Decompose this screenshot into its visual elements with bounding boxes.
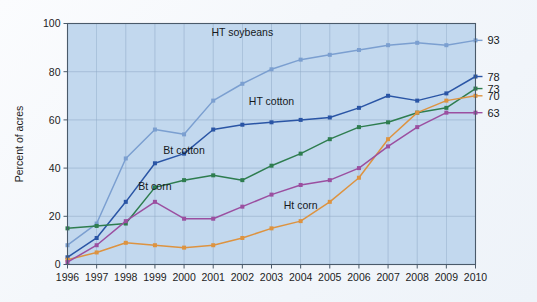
data-point xyxy=(124,219,128,223)
data-point xyxy=(240,205,244,209)
data-point xyxy=(124,156,128,160)
data-point xyxy=(182,178,186,182)
end-value-labels: 9378737063 xyxy=(476,34,500,118)
x-tick-label: 2009 xyxy=(435,271,459,283)
x-tick-label: 2010 xyxy=(464,271,488,283)
data-point xyxy=(415,125,419,129)
y-axis-ticks: 020406080100 xyxy=(43,17,68,270)
data-point xyxy=(415,99,419,103)
x-tick-label: 1997 xyxy=(85,271,109,283)
data-point xyxy=(153,243,157,247)
y-tick-label: 100 xyxy=(43,17,61,29)
end-value-label: 63 xyxy=(488,107,500,119)
data-point xyxy=(328,53,332,57)
data-point xyxy=(386,94,390,98)
annotation-ht-corn: Ht corn xyxy=(284,199,318,211)
data-point xyxy=(211,243,215,247)
data-point xyxy=(240,236,244,240)
data-point xyxy=(328,178,332,182)
data-point xyxy=(299,58,303,62)
data-point xyxy=(211,128,215,132)
data-point xyxy=(386,120,390,124)
data-point xyxy=(444,99,448,103)
data-point xyxy=(124,241,128,245)
data-point xyxy=(299,118,303,122)
annotation-ht-cotton: HT cotton xyxy=(249,95,294,107)
data-point xyxy=(415,111,419,115)
data-point xyxy=(270,226,274,230)
y-tick-label: 0 xyxy=(55,258,61,270)
x-tick-label: 2004 xyxy=(289,271,313,283)
data-point xyxy=(444,91,448,95)
data-point xyxy=(386,137,390,141)
y-tick-label: 60 xyxy=(49,114,61,126)
y-tick-label: 20 xyxy=(49,210,61,222)
data-point xyxy=(386,144,390,148)
x-tick-label: 2001 xyxy=(202,271,226,283)
data-point xyxy=(299,152,303,156)
data-point xyxy=(299,219,303,223)
y-axis-title-text: Percent of acres xyxy=(13,106,25,182)
data-point xyxy=(95,250,99,254)
x-tick-label: 2003 xyxy=(260,271,284,283)
data-point xyxy=(153,128,157,132)
x-tick-label: 2002 xyxy=(231,271,255,283)
end-value-label: 93 xyxy=(488,34,500,46)
end-value-label: 70 xyxy=(488,90,500,102)
data-point xyxy=(182,217,186,221)
y-tick-label: 40 xyxy=(49,162,61,174)
x-tick-label: 2000 xyxy=(172,271,196,283)
data-point xyxy=(211,173,215,177)
data-point xyxy=(328,200,332,204)
data-point xyxy=(95,243,99,247)
data-point xyxy=(270,193,274,197)
data-point xyxy=(211,99,215,103)
y-tick-label: 80 xyxy=(49,66,61,78)
data-point xyxy=(357,125,361,129)
chart-container: 020406080100 199619971998199920002001200… xyxy=(0,0,537,302)
data-point xyxy=(182,132,186,136)
annotation-ht-soybeans: HT soybeans xyxy=(212,26,274,38)
data-point xyxy=(240,82,244,86)
data-point xyxy=(415,41,419,45)
data-point xyxy=(444,111,448,115)
data-point xyxy=(182,246,186,250)
data-point xyxy=(124,200,128,204)
data-point xyxy=(153,200,157,204)
end-value-label: 78 xyxy=(488,71,500,83)
data-point xyxy=(444,43,448,47)
data-point xyxy=(95,224,99,228)
y-axis-title: Percent of acres xyxy=(13,106,25,182)
annotation-bt-cotton: Bt cotton xyxy=(163,144,205,156)
data-point xyxy=(299,183,303,187)
data-point xyxy=(357,106,361,110)
line-chart: 020406080100 199619971998199920002001200… xyxy=(0,0,537,302)
x-tick-label: 1996 xyxy=(56,271,80,283)
data-point xyxy=(328,115,332,119)
data-point xyxy=(357,176,361,180)
data-point xyxy=(328,137,332,141)
data-point xyxy=(270,67,274,71)
x-tick-label: 2008 xyxy=(406,271,430,283)
data-point xyxy=(386,43,390,47)
data-point xyxy=(211,217,215,221)
x-tick-label: 1999 xyxy=(143,271,167,283)
x-tick-label: 2007 xyxy=(376,271,400,283)
x-axis-ticks: 1996199719981999200020012002200320042005… xyxy=(56,265,488,283)
data-point xyxy=(357,48,361,52)
x-tick-label: 1998 xyxy=(114,271,138,283)
annotation-bt-corn: Bt corn xyxy=(138,180,171,192)
x-tick-label: 2006 xyxy=(347,271,371,283)
data-point xyxy=(270,164,274,168)
data-point xyxy=(153,161,157,165)
data-point xyxy=(444,106,448,110)
data-point xyxy=(95,236,99,240)
x-tick-label: 2005 xyxy=(318,271,342,283)
data-point xyxy=(240,178,244,182)
data-point xyxy=(357,166,361,170)
data-point xyxy=(240,123,244,127)
data-point xyxy=(270,120,274,124)
